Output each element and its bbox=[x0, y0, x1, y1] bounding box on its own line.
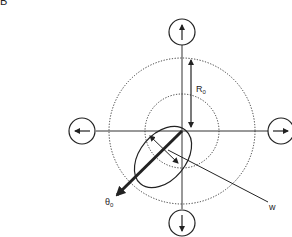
motion-direction-diagram: R0 θ0 w bbox=[0, 0, 292, 237]
preferred-direction-arrow bbox=[117, 131, 182, 195]
radius-label: R0 bbox=[196, 84, 207, 95]
width-label: w bbox=[268, 202, 276, 212]
receptive-field-ellipse bbox=[123, 115, 203, 198]
direction-left-circle bbox=[69, 118, 95, 144]
theta-label: θ0 bbox=[105, 197, 114, 208]
direction-up-circle bbox=[169, 19, 195, 45]
direction-right-circle bbox=[268, 118, 292, 144]
direction-down-circle bbox=[169, 210, 195, 236]
